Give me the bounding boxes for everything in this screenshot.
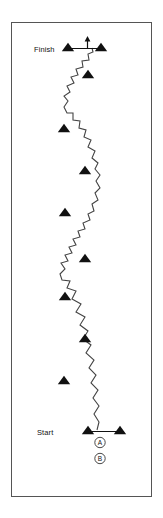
finish-arrow-icon bbox=[85, 36, 91, 48]
gate-8-icon bbox=[58, 376, 70, 384]
finish-gate-right-icon bbox=[95, 43, 107, 51]
gate-5-icon bbox=[79, 254, 91, 262]
course-diagram: A B Finish Start bbox=[0, 0, 163, 518]
marker-b-letter: B bbox=[98, 455, 102, 462]
finish-gate-left-icon bbox=[62, 43, 74, 51]
start-gate-right-icon bbox=[114, 426, 126, 434]
course-path bbox=[60, 48, 100, 430]
gate-1-icon bbox=[82, 70, 94, 78]
marker-b: B bbox=[95, 453, 105, 463]
gate-4-icon bbox=[59, 208, 71, 216]
course-canvas: A B Finish Start bbox=[0, 0, 163, 518]
gate-3-icon bbox=[79, 166, 91, 174]
start-label: Start bbox=[37, 428, 54, 437]
gate-2-icon bbox=[58, 124, 70, 132]
gate-7-icon bbox=[79, 334, 91, 342]
marker-a: A bbox=[95, 437, 105, 447]
start-gate-left-icon bbox=[82, 426, 94, 434]
marker-a-letter: A bbox=[98, 439, 103, 446]
finish-label: Finish bbox=[34, 45, 55, 54]
gate-6-icon bbox=[59, 292, 71, 300]
